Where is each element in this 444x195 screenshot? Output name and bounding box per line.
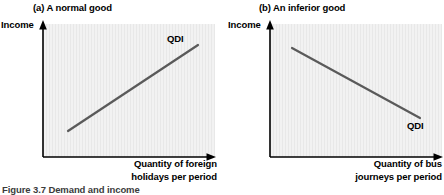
panel-b-qdi-curve	[292, 48, 420, 118]
panel-a-y-axis-arrow	[39, 20, 47, 30]
panel-a-qdi-label: QDI	[167, 33, 184, 44]
panel-b-x-axis-label-line1: Quantity of bus	[282, 158, 442, 171]
panel-b-axes	[222, 0, 444, 180]
panel-b-x-axis-label-line2: journeys per period	[282, 171, 442, 184]
panel-a-qdi-curve	[68, 45, 198, 131]
figure-caption: Figure 3.7 Demand and income	[2, 184, 140, 195]
figure-demand-and-income: (a) A normal good Income QDI Quantity of…	[0, 0, 444, 195]
panel-a-axes	[0, 0, 222, 180]
chart-panel-b: (b) An inferior good Income QDI Quantity…	[222, 0, 444, 180]
panel-a-x-axis-label-line2: holidays per period	[55, 171, 217, 184]
panel-b-qdi-label: QDI	[407, 120, 424, 131]
panel-b-y-axis-arrow	[266, 20, 274, 30]
panel-a-x-axis-label-line1: Quantity of foreign	[55, 158, 217, 171]
panel-b-x-axis-label: Quantity of bus journeys per period	[282, 158, 442, 183]
chart-panel-a: (a) A normal good Income QDI Quantity of…	[0, 0, 222, 180]
panel-a-x-axis-label: Quantity of foreign holidays per period	[55, 158, 217, 183]
